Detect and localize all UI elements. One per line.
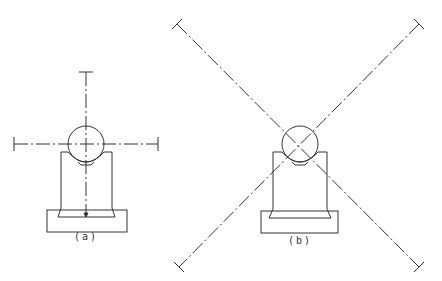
pedestal-stem (269, 152, 331, 218)
figure-a (14, 72, 158, 232)
pedestal-base (261, 211, 338, 233)
figure-label-b: (b) (288, 235, 312, 246)
diagram-canvas (0, 0, 442, 281)
figure-label-a: (a) (74, 231, 98, 242)
arrow-head-bottom (84, 213, 88, 217)
